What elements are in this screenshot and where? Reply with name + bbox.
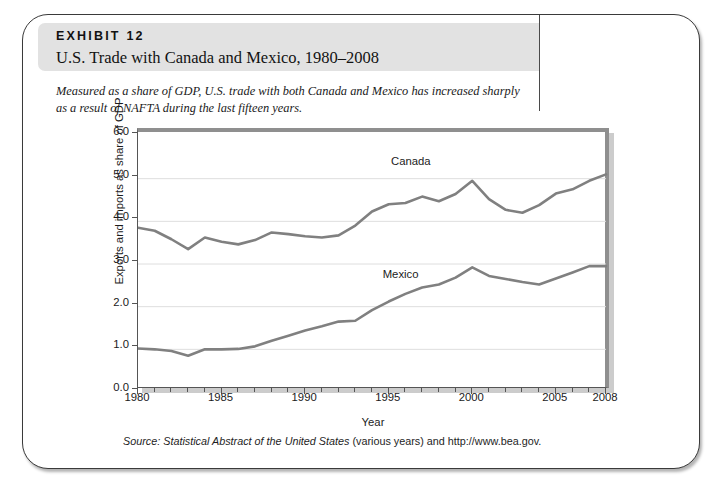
series-label-mexico: Mexico [383,268,419,280]
x-axis-tick-label: 2000 [446,391,496,403]
x-axis-title: Year [137,416,609,428]
x-axis-tick [187,388,188,392]
exhibit-card: EXHIBIT 12 U.S. Trade with Canada and Me… [22,14,700,469]
y-axis-tick-label: 3.0 [89,253,129,265]
y-axis-tick-label: 1.0 [89,338,129,350]
y-axis-tick-label: 4.0 [89,210,129,222]
x-axis-tick-label: 1980 [112,391,162,403]
x-axis-tick-label: 1990 [279,391,329,403]
x-axis-tick-label: 2008 [580,391,630,403]
x-axis-tick [254,388,255,392]
y-axis-tick [132,175,137,176]
x-axis-tick [521,388,522,392]
x-axis-tick-label: 1985 [196,391,246,403]
y-axis-tick [132,260,137,261]
x-axis-tick [505,388,506,392]
x-axis-tick-label: 1995 [363,391,413,403]
series-label-canada: Canada [391,155,431,167]
x-axis-tick-label: 2005 [530,391,580,403]
y-axis-tick [132,345,137,346]
y-axis-tick-label: 5.0 [89,168,129,180]
y-axis-tick [132,132,137,133]
y-axis-tick-label: 6.0 [89,125,129,137]
source-suffix: (various years) and http://www.bea.gov. [349,435,541,447]
x-axis-tick [338,388,339,392]
x-axis-tick [170,388,171,392]
x-axis-tick [421,388,422,392]
x-axis-tick [271,388,272,392]
x-axis-tick [438,388,439,392]
source-note: Source: Statistical Abstract of the Unit… [123,435,541,447]
y-axis-tick [132,217,137,218]
x-axis-tick [354,388,355,392]
source-prefix: Source: Statistical Abstract of the Unit… [123,435,349,447]
chart-figure: Exports and imports as share of GDP Year… [23,15,701,470]
plot-canvas [138,132,610,392]
y-axis-tick [132,303,137,304]
y-axis-tick-label: 2.0 [89,296,129,308]
plot-frame [137,128,609,388]
